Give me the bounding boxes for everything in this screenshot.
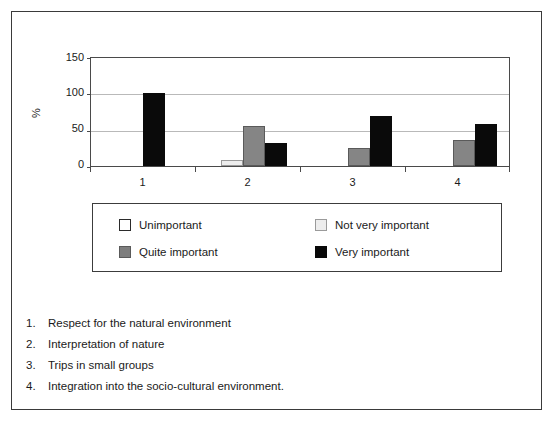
bars-layer xyxy=(91,58,509,166)
list-item: 4. Integration into the socio-cultural e… xyxy=(26,380,526,401)
bar-group-3 xyxy=(301,58,406,166)
bar-very-important-3 xyxy=(370,116,392,166)
x-tick-label-3: 3 xyxy=(300,175,405,189)
figure-frame: % 150 100 50 0 xyxy=(11,11,542,410)
x-axis-tick-labels: 1 2 3 4 xyxy=(90,175,510,191)
x-axis-ticks xyxy=(90,167,510,173)
x-tickmark xyxy=(405,167,406,172)
bar-quite-important-2 xyxy=(243,126,265,166)
footnote-number: 1. xyxy=(26,317,48,329)
legend-swatch-quite-important-icon xyxy=(119,246,131,258)
legend-item-very-important: Very important xyxy=(315,244,409,260)
footnote-list: 1. Respect for the natural environment 2… xyxy=(26,317,526,401)
bar-group-1 xyxy=(91,58,196,166)
legend-label: Quite important xyxy=(139,246,218,259)
footnote-text: Trips in small groups xyxy=(48,359,154,371)
x-tick-label-1: 1 xyxy=(90,175,195,189)
bar-quite-important-4 xyxy=(453,140,475,166)
x-tickmark xyxy=(195,167,196,172)
legend-item-quite-important: Quite important xyxy=(119,244,218,260)
list-item: 3. Trips in small groups xyxy=(26,359,526,380)
bar-chart: % 150 100 50 0 xyxy=(12,12,543,202)
legend-label: Unimportant xyxy=(139,219,202,232)
chart-legend: Unimportant Not very important Quite imp… xyxy=(92,203,502,272)
y-axis-tick-labels: 150 100 50 0 xyxy=(42,52,84,172)
bar-very-important-2 xyxy=(265,143,287,166)
footnote-number: 4. xyxy=(26,380,48,392)
footnote-text: Interpretation of nature xyxy=(48,338,164,350)
list-item: 2. Interpretation of nature xyxy=(26,338,526,359)
legend-swatch-very-important-icon xyxy=(315,246,327,258)
x-tickmark xyxy=(300,167,301,172)
x-tick-label-2: 2 xyxy=(195,175,300,189)
footnote-text: Respect for the natural environment xyxy=(48,317,231,329)
bar-group-4 xyxy=(406,58,511,166)
list-item: 1. Respect for the natural environment xyxy=(26,317,526,338)
legend-item-not-very-important: Not very important xyxy=(315,217,429,233)
bar-not-very-important-2 xyxy=(221,160,243,166)
x-tick-label-4: 4 xyxy=(405,175,510,189)
x-tickmark xyxy=(90,167,91,172)
y-tick-label: 150 xyxy=(42,52,84,63)
bar-very-important-4 xyxy=(475,124,497,167)
footnote-number: 2. xyxy=(26,338,48,350)
y-axis-title: % xyxy=(30,103,42,123)
legend-label: Not very important xyxy=(335,219,429,232)
legend-swatch-unimportant-icon xyxy=(119,219,131,231)
bar-very-important-1 xyxy=(143,93,165,166)
footnote-number: 3. xyxy=(26,359,48,371)
legend-label: Very important xyxy=(335,246,409,259)
y-tick-label: 50 xyxy=(42,123,84,134)
plot-area xyxy=(90,57,510,167)
legend-item-unimportant: Unimportant xyxy=(119,217,202,233)
x-tickmark xyxy=(509,167,510,172)
y-tick-label: 0 xyxy=(42,159,84,170)
y-tick-label: 100 xyxy=(42,87,84,98)
bar-quite-important-3 xyxy=(348,148,370,166)
legend-swatch-not-very-important-icon xyxy=(315,219,327,231)
footnote-text: Integration into the socio-cultural envi… xyxy=(48,380,284,392)
bar-group-2 xyxy=(196,58,301,166)
